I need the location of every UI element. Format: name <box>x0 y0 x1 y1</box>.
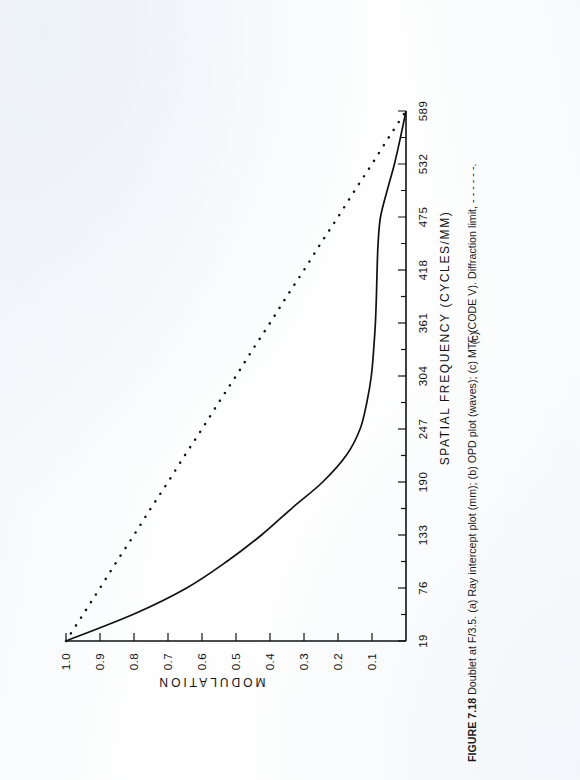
y-tick-label: 0.7 <box>162 653 174 670</box>
y-tick-label: 1.0 <box>60 653 72 670</box>
y-tick-label: 0.4 <box>264 653 276 670</box>
book-page: 19761331902473043614184755325890.10.20.3… <box>0 0 580 780</box>
tick-marks <box>66 111 406 641</box>
diffraction-limit-curve <box>66 111 406 641</box>
x-tick-label: 19 <box>417 634 429 648</box>
x-tick-label: 304 <box>417 366 429 386</box>
y-tick-label: 0.3 <box>298 653 310 670</box>
y-tick-label: 0.5 <box>230 653 242 670</box>
y-tick-label: 0.6 <box>196 653 208 670</box>
figure-number: FIGURE 7.18 <box>466 698 478 762</box>
x-tick-label: 589 <box>417 101 429 121</box>
plot-area: 19761331902473043614184755325890.10.20.3… <box>50 95 480 715</box>
x-axis-title: SPATIAL FREQUENCY (CYCLES/MM) <box>438 211 452 466</box>
axes <box>66 111 406 641</box>
figure-caption-text: Doublet at F/3.5. (a) Ray intercept plot… <box>466 164 478 698</box>
y-axis-title: MODULATION <box>156 675 265 689</box>
x-tick-label: 190 <box>417 472 429 492</box>
figure-caption: FIGURE 7.18 Doublet at F/3.5. (a) Ray in… <box>466 164 478 763</box>
y-tick-label: 0.2 <box>332 653 344 670</box>
mtf-chart-svg <box>50 95 480 715</box>
mtf-curve <box>66 111 406 641</box>
x-tick-label: 475 <box>417 207 429 227</box>
y-tick-label: 0.1 <box>366 653 378 670</box>
x-tick-label: 361 <box>417 313 429 333</box>
y-tick-label: 0.9 <box>94 653 106 670</box>
x-tick-label: 76 <box>417 581 429 595</box>
figure-mtf-plot: 19761331902473043614184755325890.10.20.3… <box>50 95 480 715</box>
y-tick-label: 0.8 <box>128 653 140 670</box>
x-tick-label: 418 <box>417 260 429 280</box>
data-series <box>66 111 406 641</box>
x-tick-label: 532 <box>417 154 429 174</box>
x-tick-label: 247 <box>417 419 429 439</box>
x-tick-label: 133 <box>417 525 429 545</box>
